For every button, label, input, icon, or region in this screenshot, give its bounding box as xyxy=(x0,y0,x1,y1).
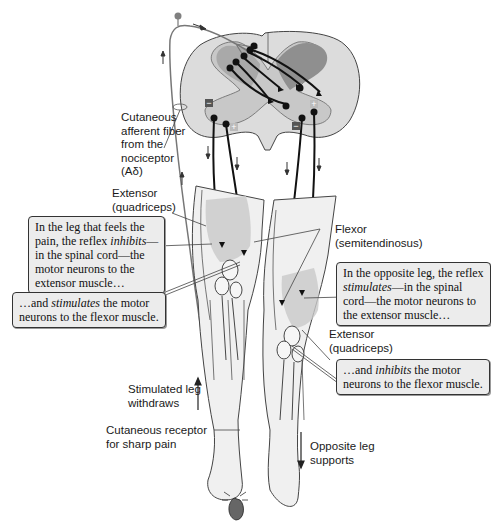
callout-text: — xyxy=(146,234,158,248)
callout-line: stimulates—in the spinal xyxy=(343,280,484,294)
label-line: Cutaneous receptor xyxy=(106,424,207,438)
callout-text: …and xyxy=(343,363,375,377)
callout-right-stimulates: In the opposite leg, the reflex stimulat… xyxy=(336,262,491,326)
label-line: (Aδ) xyxy=(121,165,185,179)
callout-line: extensor muscle… xyxy=(35,276,158,290)
label-line: (quadriceps) xyxy=(112,201,176,215)
label-line: for sharp pain xyxy=(106,438,207,452)
label-line: supports xyxy=(310,454,375,468)
support-arrow-icon xyxy=(298,432,304,468)
inhibitory-synapse-left: − xyxy=(205,98,213,108)
svg-text:+: + xyxy=(311,99,316,109)
excitatory-synapse-left: + xyxy=(230,122,238,132)
callout-text: …and xyxy=(19,296,51,310)
callout-line: neurons to the flexor muscle. xyxy=(343,377,483,391)
svg-text:−: − xyxy=(293,121,298,131)
callout-text: pain, the reflex xyxy=(35,234,110,248)
callout-emphasis: inhibits xyxy=(375,363,411,377)
label-line: Extensor xyxy=(112,187,176,201)
callout-line: cord—the motor neurons to xyxy=(343,294,484,308)
label-line: Extensor xyxy=(329,328,393,342)
callout-emphasis: inhibits xyxy=(110,234,146,248)
label-line: nociceptor xyxy=(121,152,185,166)
label-line: afferent fiber xyxy=(121,125,185,139)
callout-left-inhibits: In the leg that feels the pain, the refl… xyxy=(28,216,165,294)
callout-emphasis: stimulates xyxy=(51,296,100,310)
callout-emphasis: stimulates xyxy=(343,280,392,294)
callout-text: —in the spinal xyxy=(392,280,463,294)
extensor-right-label: Extensor (quadriceps) xyxy=(329,328,393,355)
cutaneous-receptor-label: Cutaneous receptor for sharp pain xyxy=(106,424,207,451)
callout-line: the extensor muscle… xyxy=(343,308,484,322)
label-line: Stimulated leg xyxy=(128,383,201,397)
flexor-label: Flexor (semitendinosus) xyxy=(335,223,423,250)
callout-left-stimulates: …and stimulates the motor neurons to the… xyxy=(12,292,166,328)
callout-line: in the spinal cord—the xyxy=(35,248,158,262)
svg-text:−: − xyxy=(206,98,211,108)
opposite-leg-label: Opposite leg supports xyxy=(310,440,375,467)
callout-line: In the leg that feels the xyxy=(35,220,158,234)
label-line: (semitendinosus) xyxy=(335,237,423,251)
label-line: from the xyxy=(121,138,185,152)
label-line: (quadriceps) xyxy=(329,342,393,356)
callout-text: the motor xyxy=(100,296,149,310)
excitatory-synapse-right: + xyxy=(310,99,318,109)
svg-text:+: + xyxy=(231,122,236,132)
extensor-left-label: Extensor (quadriceps) xyxy=(112,187,176,214)
callout-text: the motor xyxy=(411,363,460,377)
callout-line: …and inhibits the motor xyxy=(343,363,483,377)
label-line: Opposite leg xyxy=(310,440,375,454)
stimulated-leg-label: Stimulated leg withdraws xyxy=(128,383,201,410)
label-line: withdraws xyxy=(128,397,201,411)
afferent-fiber-label: Cutaneous afferent fiber from the nocice… xyxy=(121,111,185,179)
callout-right-inhibits: …and inhibits the motor neurons to the f… xyxy=(336,359,490,395)
label-line: Flexor xyxy=(335,223,423,237)
callout-line: In the opposite leg, the reflex xyxy=(343,266,484,280)
spinal-cord-section xyxy=(180,31,359,150)
callout-line: pain, the reflex inhibits— xyxy=(35,234,158,248)
callout-line: …and stimulates the motor xyxy=(19,296,159,310)
callout-line: neurons to the flexor muscle. xyxy=(19,310,159,324)
callout-line: motor neurons to the xyxy=(35,262,158,276)
inhibitory-synapse-right: − xyxy=(292,121,300,131)
dorsal-root-ganglion-cell xyxy=(175,13,182,20)
label-line: Cutaneous xyxy=(121,111,185,125)
down-arrow-icons xyxy=(206,146,321,175)
